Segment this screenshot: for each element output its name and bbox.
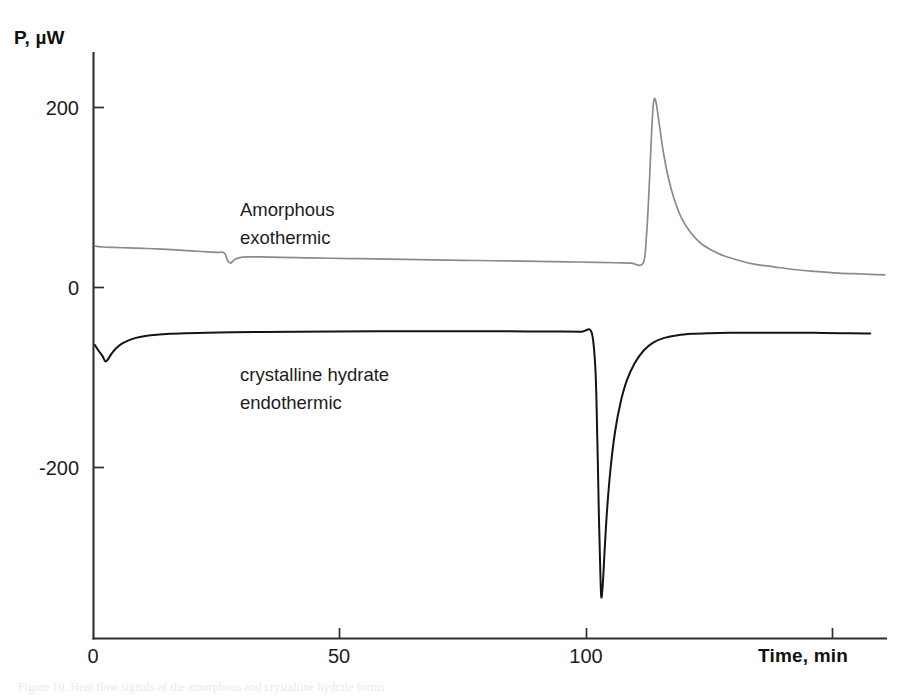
y-tick-label-200: 200 <box>46 97 79 119</box>
annotation-amorphous-line2: exothermic <box>240 227 330 248</box>
figure-caption-partial: Figure 10. Heat flow signals of the amor… <box>18 680 898 694</box>
x-tick-label-50: 50 <box>328 645 350 667</box>
y-tick-label-minus-200: -200 <box>39 457 79 479</box>
annotation-crystalline-line1: crystalline hydrate <box>240 364 389 385</box>
x-tick-label-0: 0 <box>87 645 98 667</box>
y-tick-label-0: 0 <box>68 277 79 299</box>
x-tick-label-100: 100 <box>569 645 602 667</box>
x-axis-title: Time, min <box>758 645 848 666</box>
series-line-amorphous-exothermic <box>95 98 884 274</box>
chart-canvas: P, µW Time, min 200 0 -200 0 50 100 Amor… <box>0 0 913 696</box>
y-axis-title: P, µW <box>14 27 65 48</box>
figure-root: P, µW Time, min 200 0 -200 0 50 100 Amor… <box>0 0 913 696</box>
annotation-crystalline-line2: endothermic <box>240 392 342 413</box>
annotation-amorphous-line1: Amorphous <box>240 199 335 220</box>
series-line-crystalline-endothermic <box>95 329 870 597</box>
